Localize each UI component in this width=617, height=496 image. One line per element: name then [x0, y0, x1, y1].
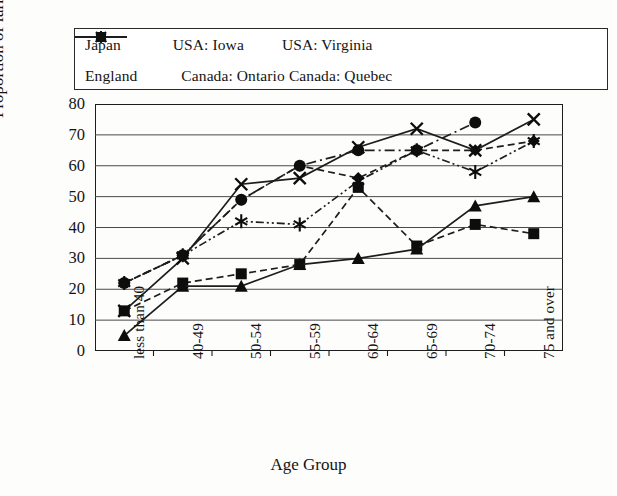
x-tick-label: 65-69: [424, 323, 441, 359]
line-chart-figure: Japan USA: Iowa USA: Virginia: [0, 0, 617, 496]
x-tick-label: 60-64: [365, 323, 382, 359]
x-axis-title: Age Group: [0, 455, 617, 475]
x-tick-label: 50-54: [248, 323, 265, 359]
plot-lines: [0, 0, 617, 496]
x-tick-label: 75 and over: [541, 286, 558, 359]
x-tick-label: less than 40: [131, 286, 148, 359]
x-tick-label: 70-74: [482, 323, 499, 359]
x-tick-label: 55-59: [307, 323, 324, 359]
x-tick-label: 40-49: [190, 323, 207, 359]
